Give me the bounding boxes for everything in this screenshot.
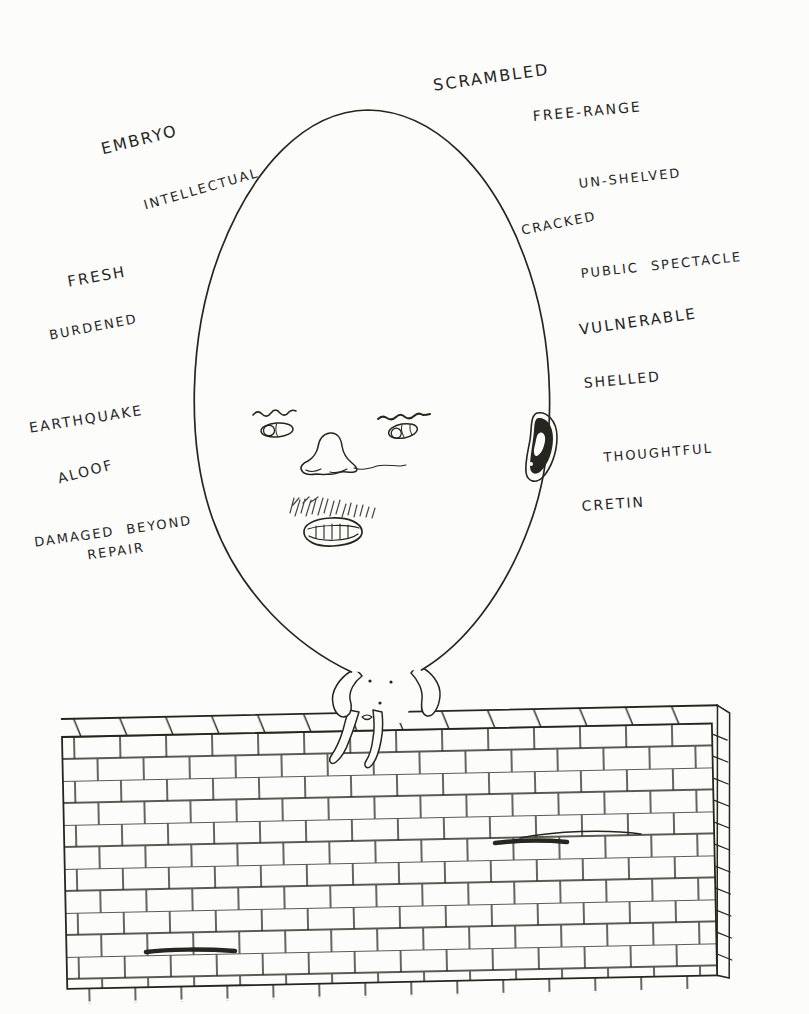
smudge-left [146, 950, 235, 952]
chest-dot-right [389, 680, 392, 683]
egg-outline [194, 110, 549, 672]
right-arm [411, 667, 440, 716]
mouth [304, 518, 362, 546]
artwork-canvas: SCRAMBLED FREE-RANGE EMBRYO INTELLECTUAL… [0, 0, 809, 1014]
navel-dot [378, 701, 381, 704]
smudge-right [495, 841, 567, 843]
brick-wall [62, 705, 736, 1004]
chest-dot-left [368, 679, 371, 682]
